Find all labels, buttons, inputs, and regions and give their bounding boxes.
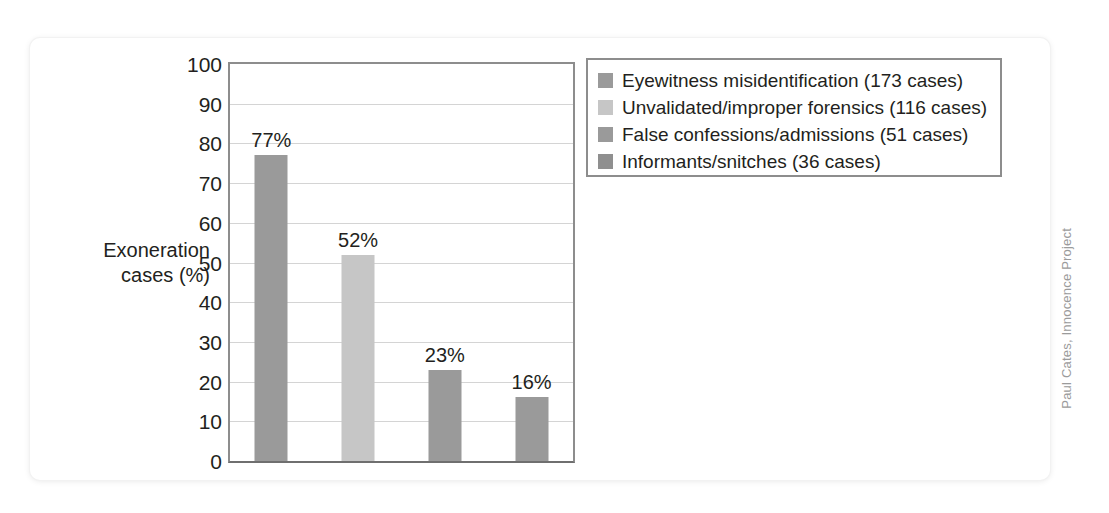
bar-slot: 23% [402,64,489,461]
y-axis-tick-label: 0 [178,451,222,472]
legend-swatch-icon [598,73,613,88]
bar-value-label: 23% [425,345,465,365]
bar[interactable] [428,370,461,461]
bar[interactable] [255,155,288,461]
legend-swatch-icon [598,154,613,169]
y-axis-tick-label: 10 [178,411,222,432]
y-axis-tick-label: 70 [178,173,222,194]
y-axis-tick-label: 50 [178,252,222,273]
y-axis-tick-label: 40 [178,292,222,313]
bar-slot: 52% [315,64,402,461]
legend-item-label: Unvalidated/improper forensics (116 case… [622,98,987,117]
legend-item-label: False confessions/admissions (51 cases) [622,125,968,144]
bar-slot: 77% [228,64,315,461]
bar-value-label: 77% [251,130,291,150]
bar-value-label: 16% [512,372,552,392]
legend-item[interactable]: Eyewitness misidentification (173 cases) [598,67,990,93]
legend-item[interactable]: Informants/snitches (36 cases) [598,148,990,174]
bar[interactable] [342,255,375,461]
bar[interactable] [515,397,548,461]
y-axis-tick-label: 30 [178,331,222,352]
y-axis-tick-label: 90 [178,93,222,114]
y-axis-tick-label: 80 [178,133,222,154]
legend-item[interactable]: False confessions/admissions (51 cases) [598,121,990,147]
legend-item[interactable]: Unvalidated/improper forensics (116 case… [598,94,990,120]
legend-item-label: Informants/snitches (36 cases) [622,152,881,171]
legend-item-label: Eyewitness misidentification (173 cases) [622,71,963,90]
y-axis-tick-label: 100 [178,54,222,75]
chart-legend: Eyewitness misidentification (173 cases)… [586,58,1002,177]
legend-swatch-icon [598,127,613,142]
y-axis-tick-label: 20 [178,371,222,392]
bar-slot: 16% [488,64,575,461]
bar-value-label: 52% [338,230,378,250]
legend-swatch-icon [598,100,613,115]
photo-credit: Paul Cates, Innocence Project [1059,228,1074,409]
bars-layer: 77%52%23%16% [228,62,575,463]
figure-card: Exoneration cases (%) 100908070605040302… [30,38,1050,480]
bar-chart: Exoneration cases (%) 100908070605040302… [30,38,1050,480]
y-axis-tick-labels: 1009080706050403020100 [174,62,222,463]
y-axis-tick-label: 60 [178,212,222,233]
